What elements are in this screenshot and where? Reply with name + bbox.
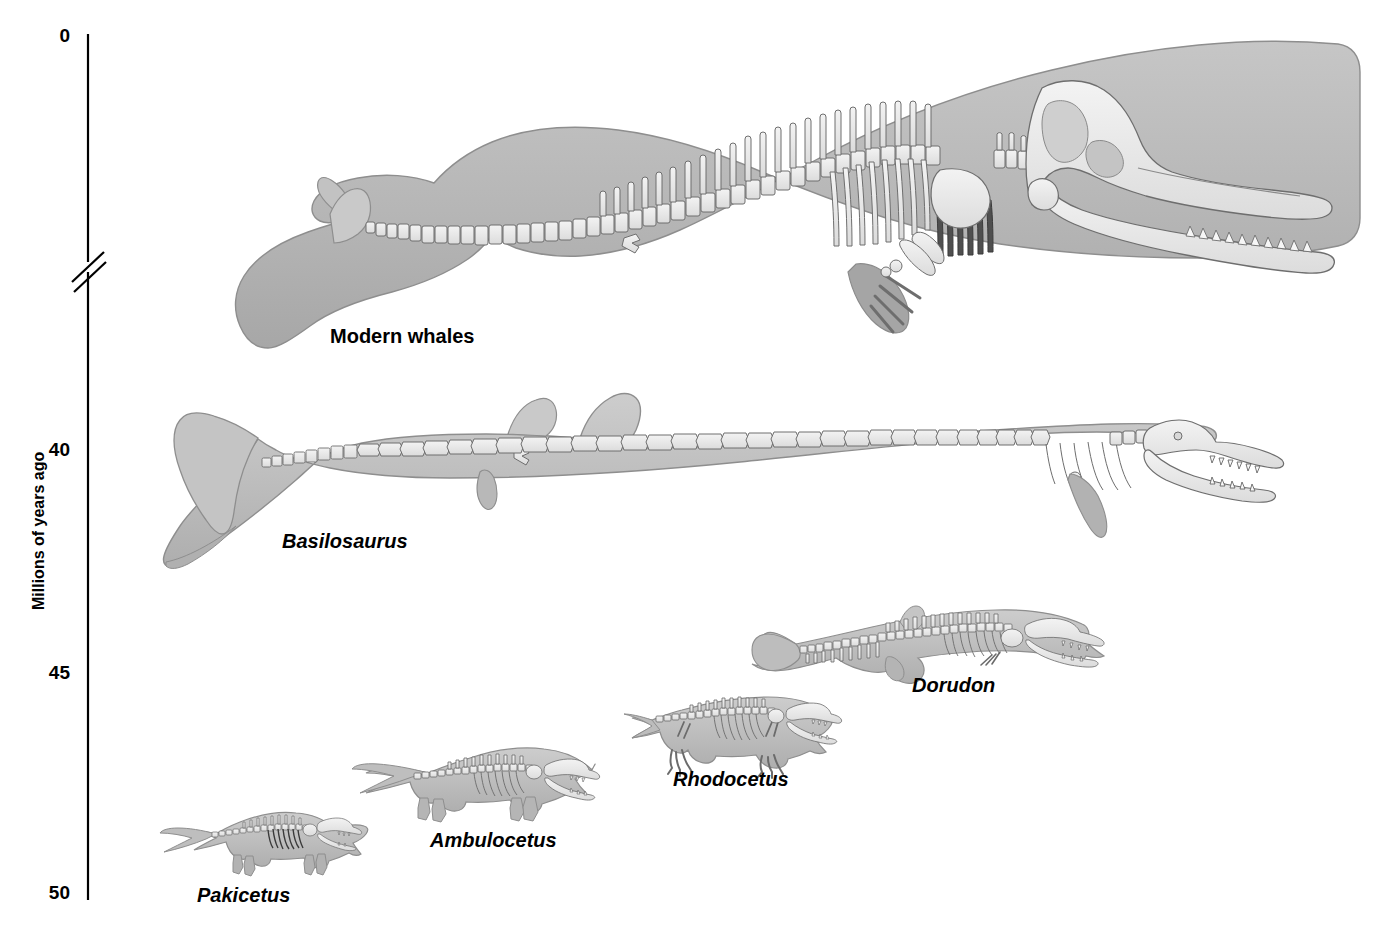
species-label-dorudon: Dorudon [912, 674, 995, 697]
species-label-basilosaurus: Basilosaurus [282, 530, 408, 553]
figure-canvas: Millions of years ago 0 40 45 50 Modern … [0, 0, 1380, 932]
species-label-ambulocetus: Ambulocetus [430, 829, 557, 852]
basilosaurus-dorsal-ridge [508, 398, 557, 436]
species-label-rhodocetus: Rhodocetus [673, 768, 789, 791]
organism-dorudon [752, 606, 1104, 683]
organism-rhodocetus [624, 697, 842, 778]
basilosaurus-skull [1143, 420, 1283, 468]
tick-label-50: 50 [24, 882, 70, 904]
organism-modern-whales [235, 39, 1360, 348]
organism-ambulocetus [352, 748, 600, 822]
organism-pakicetus [160, 812, 368, 876]
basilosaurus-hind-flipper [1068, 474, 1107, 537]
tick-label-40: 40 [24, 439, 70, 461]
species-label-modern-whales: Modern whales [330, 325, 474, 348]
species-label-pakicetus: Pakicetus [197, 884, 290, 907]
illustration-layer [0, 0, 1380, 932]
basilosaurus-orbit [1174, 432, 1182, 440]
rhodocetus-tail [624, 714, 660, 738]
tick-label-0: 0 [24, 25, 70, 47]
pakicetus-tail [160, 828, 216, 852]
tick-label-45: 45 [24, 662, 70, 684]
axis-title: Millions of years ago [30, 452, 48, 610]
modern-whale-jaw-joint [1028, 179, 1058, 210]
